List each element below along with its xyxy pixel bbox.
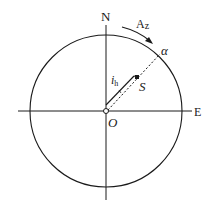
azimuth-label-sub: z — [145, 20, 150, 31]
north-label: N — [101, 9, 111, 24]
alpha-label: α — [161, 43, 169, 58]
azimuth-label: Az — [136, 17, 150, 31]
ih-label: ih — [111, 73, 118, 88]
azimuth-diagram: N E O α S Az ih — [0, 0, 214, 208]
azimuth-label-main: A — [136, 17, 145, 31]
ih-label-sub: h — [114, 79, 118, 88]
east-label: E — [194, 105, 201, 119]
origin-label: O — [108, 115, 118, 130]
origin-marker — [104, 109, 109, 114]
source-label: S — [139, 79, 146, 94]
